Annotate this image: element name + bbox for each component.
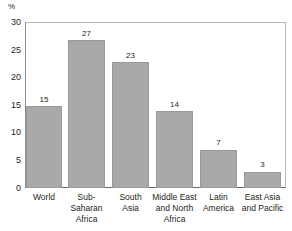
category-label-sub-saharan-africa: Sub- Saharan Africa [64,192,109,225]
category-line: Africa [143,214,206,225]
category-label-world: World [22,192,66,203]
bar-world[interactable] [26,106,62,189]
bar-slot-sub-saharan-africa: 27 [68,23,105,188]
bar-slot-south-asia: 23 [112,23,149,188]
category-line: Saharan [64,203,109,214]
y-axis-tick-labels: 30 25 20 15 10 5 0 [0,0,21,231]
bar-middle-east-and-north-africa[interactable] [156,111,193,188]
bar-south-asia[interactable] [112,62,149,189]
bar-value-latin-america: 7 [200,138,237,147]
bar-slot-east-asia-and-pacific: 3 [244,23,281,188]
y-tick-30: 30 [1,18,21,27]
bar-value-east-asia-and-pacific: 3 [244,160,281,169]
bar-slot-world: 15 [26,23,62,188]
y-tick-0: 0 [1,184,21,193]
bar-latin-america[interactable] [200,150,237,189]
bar-value-world: 15 [26,95,62,104]
bars-layer: 15 27 23 14 7 3 [26,23,285,188]
bar-value-middle-east-and-north-africa: 14 [156,100,193,109]
bar-sub-saharan-africa[interactable] [68,40,105,189]
category-line: East Asia [231,192,292,203]
x-axis-category-labels: World Sub- Saharan Africa South Asia Mid… [26,192,285,231]
y-tick-20: 20 [1,73,21,82]
bar-value-south-asia: 23 [112,51,149,60]
bar-chart: % 30 25 20 15 10 5 0 15 27 23 14 7 [0,0,292,231]
category-line: Sub- [64,192,109,203]
bar-value-sub-saharan-africa: 27 [68,29,105,38]
category-label-east-asia-and-pacific: East Asia and Pacific [231,192,292,214]
category-line: Africa [64,214,109,225]
bar-slot-latin-america: 7 [200,23,237,188]
y-tick-15: 15 [1,101,21,110]
y-tick-25: 25 [1,46,21,55]
bar-slot-middle-east-and-north-africa: 14 [156,23,193,188]
category-line: World [22,192,66,203]
category-line: and Pacific [231,203,292,214]
y-tick-10: 10 [1,128,21,137]
bar-east-asia-and-pacific[interactable] [244,172,281,189]
y-tick-5: 5 [1,156,21,165]
